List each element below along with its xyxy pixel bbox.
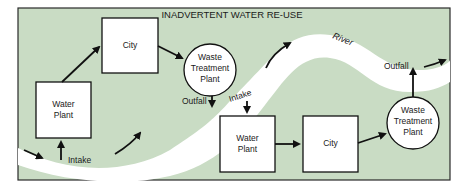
svg-text:Water: Water <box>52 99 75 109</box>
water-reuse-diagram: INADVERTENT WATER RE-USE River Water Pla… <box>0 0 459 190</box>
svg-text:Waste: Waste <box>401 105 425 115</box>
svg-text:Waste: Waste <box>198 52 222 62</box>
city-1-node: City <box>102 18 158 73</box>
svg-text:Water: Water <box>236 133 259 143</box>
svg-text:Plant: Plant <box>403 127 423 137</box>
svg-text:Plant: Plant <box>200 74 220 84</box>
waste-treatment-1-node: Waste Treatment Plant <box>184 44 236 96</box>
intake-1-label: Intake <box>68 155 91 165</box>
diagram-title: INADVERTENT WATER RE-USE <box>161 9 302 20</box>
svg-text:Treatment: Treatment <box>191 63 230 73</box>
outfall-1-label: Outfall <box>182 96 207 106</box>
outfall-2-label: Outfall <box>384 61 409 71</box>
svg-text:City: City <box>323 138 338 148</box>
svg-text:Plant: Plant <box>238 144 258 154</box>
water-plant-1-node: Water Plant <box>36 82 91 138</box>
city-2-node: City <box>303 116 358 172</box>
svg-text:Plant: Plant <box>54 110 74 120</box>
waste-treatment-2-node: Waste Treatment Plant <box>387 97 439 149</box>
svg-text:Treatment: Treatment <box>394 116 433 126</box>
water-plant-2-node: Water Plant <box>220 116 275 172</box>
svg-text:City: City <box>123 40 138 50</box>
